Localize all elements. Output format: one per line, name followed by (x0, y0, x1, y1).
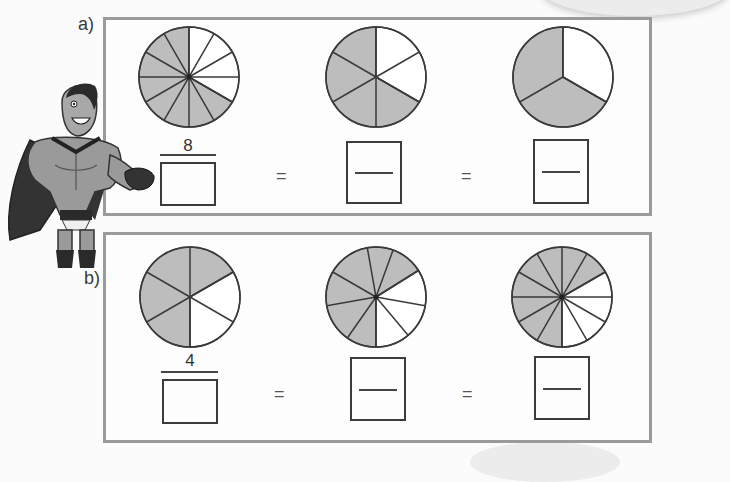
fraction-bar (542, 171, 580, 173)
equals-sign: = (274, 384, 285, 405)
fraction-input-a-2[interactable] (346, 141, 402, 204)
fraction-input-b-2[interactable] (350, 357, 406, 421)
fraction-input-b-3[interactable] (534, 356, 590, 420)
equals-sign: = (276, 166, 287, 187)
part-b-label: b) (84, 268, 100, 289)
fraction-bar (161, 371, 218, 373)
fraction-bar (359, 389, 397, 391)
pie-b-3 (511, 246, 613, 348)
pie-b-2 (325, 246, 427, 348)
part-b-numerator: 4 (162, 351, 218, 371)
part-a-label: a) (78, 14, 94, 35)
fraction-bar (160, 154, 216, 156)
speech-bubble-bottom (470, 442, 620, 482)
pie-a-3 (512, 26, 614, 128)
superhero-illustration (0, 80, 160, 270)
fraction-input-a-3[interactable] (533, 139, 589, 204)
fraction-bar (543, 388, 581, 390)
equals-sign: = (461, 166, 472, 187)
equals-sign: = (462, 384, 473, 405)
speech-bubble-top (540, 0, 730, 16)
fraction-bar (355, 172, 393, 174)
pie-a-2 (325, 26, 427, 128)
denominator-input-b-1[interactable] (162, 379, 218, 424)
denominator-input-a-1[interactable] (160, 162, 216, 206)
part-a-numerator: 8 (160, 136, 216, 156)
